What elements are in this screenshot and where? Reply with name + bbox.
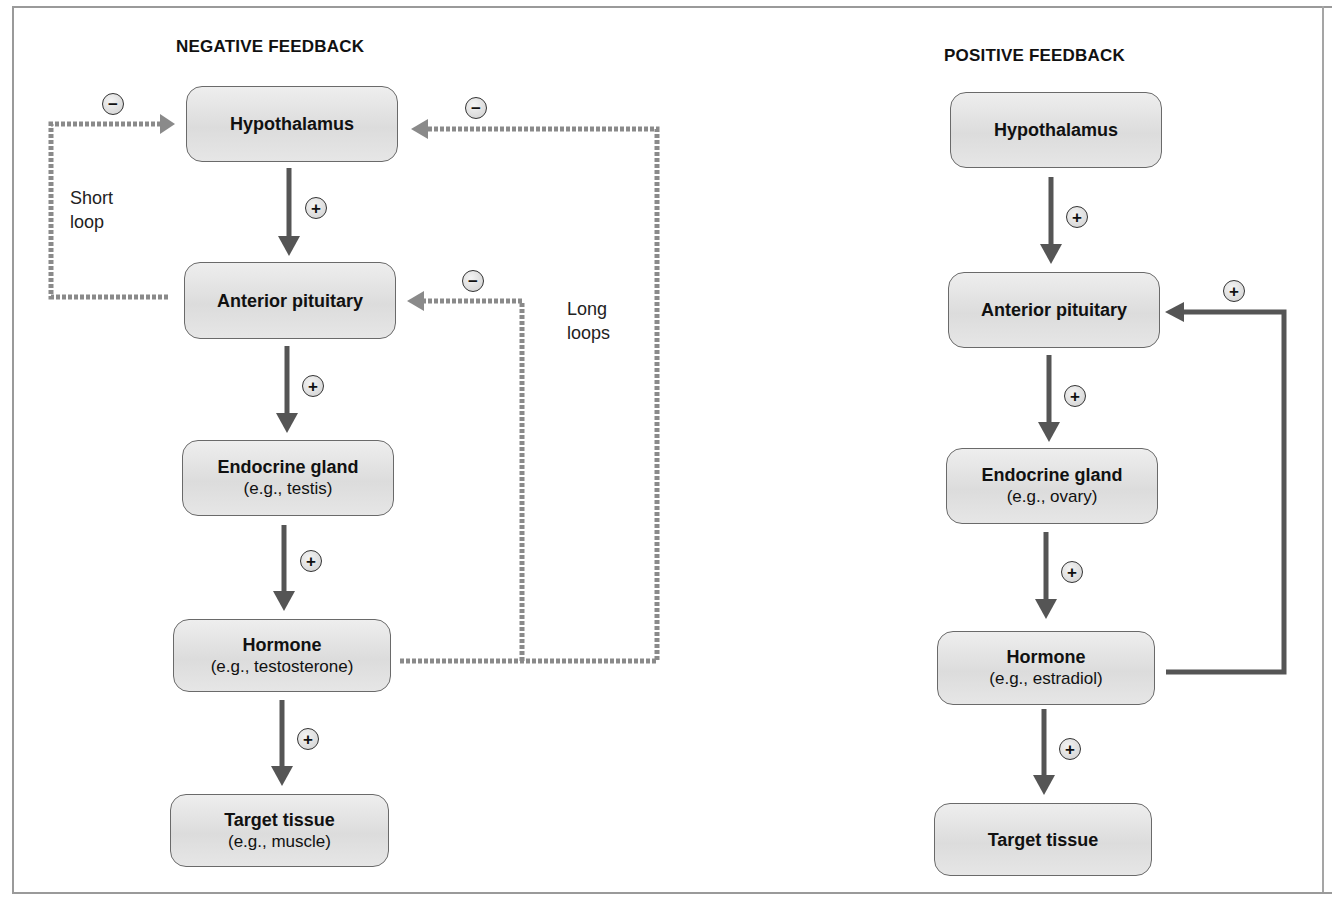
neg-box-anterior-pituitary: Anterior pituitary: [184, 262, 396, 339]
box-label: Hypothalamus: [994, 119, 1118, 141]
positive-feedback-arrowhead: [1165, 302, 1184, 322]
box-example: (e.g., testosterone): [211, 656, 354, 678]
pos-box-anterior-pituitary: Anterior pituitary: [948, 272, 1160, 348]
box-label: Target tissue: [224, 809, 335, 831]
box-label: Hypothalamus: [230, 113, 354, 135]
minus-icon: −: [462, 270, 484, 292]
neg-box-target-tissue: Target tissue (e.g., muscle): [170, 794, 389, 867]
plus-icon: +: [1061, 561, 1083, 583]
box-example: (e.g., ovary): [1007, 486, 1098, 508]
pos-box-endocrine-gland: Endocrine gland (e.g., ovary): [946, 448, 1158, 524]
minus-icon: −: [465, 97, 487, 119]
positive-feedback-loop: [1166, 312, 1284, 672]
box-label: Target tissue: [988, 829, 1099, 851]
plus-icon: +: [1066, 206, 1088, 228]
box-label: Anterior pituitary: [981, 299, 1127, 321]
pos-box-target-tissue: Target tissue: [934, 803, 1152, 876]
box-label: Endocrine gland: [217, 456, 358, 478]
box-example: (e.g., estradiol): [989, 668, 1102, 690]
plus-icon: +: [1064, 385, 1086, 407]
long-loops-label: Long loops: [567, 297, 610, 345]
plus-icon: +: [302, 375, 324, 397]
negative-dashed-loops: [51, 124, 657, 661]
box-example: (e.g., testis): [244, 478, 333, 500]
positive-feedback-title: POSITIVE FEEDBACK: [944, 46, 1125, 66]
long-loops-label-line2: loops: [567, 321, 610, 345]
long-loops-label-line1: Long: [567, 297, 610, 321]
plus-icon: +: [1223, 280, 1245, 302]
neg-box-endocrine-gland: Endocrine gland (e.g., testis): [182, 440, 394, 516]
box-label: Endocrine gland: [981, 464, 1122, 486]
plus-icon: +: [300, 550, 322, 572]
short-loop-label-line1: Short: [70, 186, 113, 210]
plus-icon: +: [297, 728, 319, 750]
neg-box-hormone: Hormone (e.g., testosterone): [173, 619, 391, 692]
plus-icon: +: [1059, 738, 1081, 760]
negative-feedback-title: NEGATIVE FEEDBACK: [176, 37, 364, 57]
minus-icon: −: [102, 93, 124, 115]
neg-box-hypothalamus: Hypothalamus: [186, 86, 398, 162]
pos-box-hypothalamus: Hypothalamus: [950, 92, 1162, 168]
plus-icon: +: [305, 197, 327, 219]
box-example: (e.g., muscle): [228, 831, 331, 853]
box-label: Anterior pituitary: [217, 290, 363, 312]
pos-box-hormone: Hormone (e.g., estradiol): [937, 631, 1155, 705]
short-loop-label: Short loop: [70, 186, 113, 234]
short-loop-label-line2: loop: [70, 210, 113, 234]
box-label: Hormone: [1006, 646, 1085, 668]
box-label: Hormone: [242, 634, 321, 656]
